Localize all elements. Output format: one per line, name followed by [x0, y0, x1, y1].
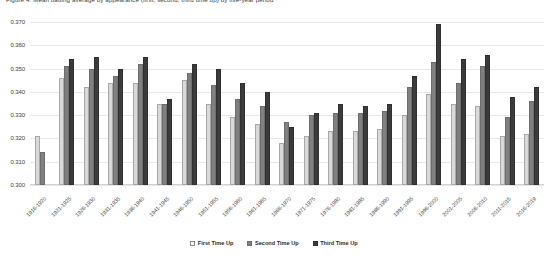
bar [412, 76, 417, 185]
bar [216, 69, 221, 185]
legend-label: Third Time Up [320, 240, 358, 246]
x-axis-tick-label: 1916-1920 [25, 196, 47, 218]
y-axis-tick-label: 0.330 [10, 112, 25, 118]
bar-group [470, 22, 494, 185]
bar-group [152, 22, 176, 185]
bar-group [324, 22, 348, 185]
bar [338, 104, 343, 186]
chart-root: Figure 4. Mean batting average by appear… [0, 0, 548, 259]
legend-item[interactable]: First Time Up [190, 240, 233, 246]
legend-item[interactable]: Second Time Up [247, 240, 298, 246]
bar [485, 55, 490, 185]
y-axis-tick-label: 0.320 [10, 135, 25, 141]
bar [265, 92, 270, 185]
y-axis-tick-label: 0.350 [10, 66, 25, 72]
bar-group [30, 22, 54, 185]
legend-swatch [190, 241, 195, 246]
chart-legend: First Time UpSecond Time UpThird Time Up [0, 240, 548, 246]
bar-group [519, 22, 543, 185]
bar [45, 183, 50, 185]
bar-group [250, 22, 274, 185]
x-axis-labels: 1916-19201921-19251926-19301931-19351936… [30, 186, 544, 238]
legend-swatch [313, 241, 318, 246]
legend-label: First Time Up [198, 240, 234, 246]
bar-group [397, 22, 421, 185]
bar-group [177, 22, 201, 185]
y-axis-tick-label: 0.310 [10, 159, 25, 165]
bar-group [103, 22, 127, 185]
bar [192, 64, 197, 185]
bar [167, 99, 172, 185]
bar [510, 97, 515, 185]
y-axis-tick-label: 0.360 [10, 42, 25, 48]
bar-group [299, 22, 323, 185]
bar [289, 127, 294, 185]
bar-group [495, 22, 519, 185]
bar-group [446, 22, 470, 185]
bar [461, 59, 466, 185]
y-axis-tick-label: 0.300 [10, 182, 25, 188]
bar [143, 57, 148, 185]
bar-group [54, 22, 78, 185]
bar [387, 104, 392, 186]
legend-swatch [247, 241, 252, 246]
bar-group [226, 22, 250, 185]
y-axis-tick-label: 0.340 [10, 89, 25, 95]
bar [118, 69, 123, 185]
bar [436, 24, 441, 185]
bar-group [275, 22, 299, 185]
legend-item[interactable]: Third Time Up [313, 240, 358, 246]
bar-group [348, 22, 372, 185]
bar-group [79, 22, 103, 185]
bar [94, 57, 99, 185]
bar-group [128, 22, 152, 185]
plot-area: 0.3700.3600.3500.3400.3300.3200.3100.300 [30, 22, 544, 185]
bar [314, 113, 319, 185]
figure-caption: Figure 4. Mean batting average by appear… [6, 0, 546, 8]
bar [363, 106, 368, 185]
bar-group [201, 22, 225, 185]
bar-groups [30, 22, 544, 185]
bar [40, 152, 45, 185]
bar [240, 83, 245, 185]
legend-label: Second Time Up [255, 240, 299, 246]
bar-group [373, 22, 397, 185]
y-axis-tick-label: 0.370 [10, 19, 25, 25]
bar [69, 59, 74, 185]
bar [534, 87, 539, 185]
x-axis-tick: 2016-2019 [519, 186, 543, 238]
bar-group [422, 22, 446, 185]
